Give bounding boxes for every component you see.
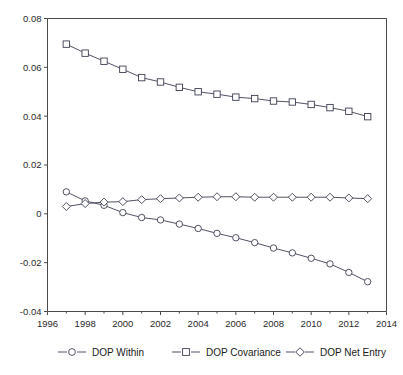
data-point-square: [308, 101, 314, 107]
data-point-square: [195, 89, 201, 95]
data-point-circle: [327, 261, 333, 267]
data-point-circle: [346, 269, 352, 275]
data-point-square: [82, 50, 88, 56]
data-point-circle: [233, 235, 239, 241]
data-point-circle: [138, 214, 144, 220]
chart-figure: 0.080.060.040.020-0.02-0.041996199820002…: [0, 0, 403, 375]
data-point-square: [214, 91, 220, 97]
series-line-dop-covariance: [66, 44, 367, 117]
data-point-diamond: [62, 203, 70, 211]
x-tick-label: 2008: [263, 318, 284, 329]
x-tick-label: 2002: [150, 318, 171, 329]
legend-marker-square: [183, 349, 190, 356]
data-point-square: [120, 66, 126, 72]
data-point-diamond: [307, 193, 315, 201]
legend-label-dop-net-entry: DOP Net Entry: [320, 347, 386, 358]
data-point-diamond: [119, 198, 127, 206]
data-point-square: [327, 104, 333, 110]
data-point-square: [364, 113, 370, 119]
data-point-circle: [176, 221, 182, 227]
legend-label-dop-within: DOP Within: [92, 347, 144, 358]
x-tick-label: 2014: [376, 318, 397, 329]
data-point-circle: [157, 217, 163, 223]
x-tick-label: 2006: [225, 318, 246, 329]
legend-marker-circle: [69, 349, 76, 356]
data-point-diamond: [213, 193, 221, 201]
y-tick-label: 0.08: [23, 13, 42, 24]
data-point-diamond: [288, 193, 296, 201]
data-point-square: [289, 99, 295, 105]
x-tick-label: 1996: [37, 318, 58, 329]
data-point-diamond: [251, 193, 259, 201]
data-point-circle: [195, 225, 201, 231]
data-point-square: [176, 84, 182, 90]
data-point-circle: [270, 245, 276, 251]
data-point-diamond: [270, 193, 278, 201]
data-point-square: [157, 79, 163, 85]
x-tick-label: 2000: [112, 318, 133, 329]
data-point-diamond: [175, 194, 183, 202]
data-point-diamond: [138, 196, 146, 204]
data-point-diamond: [232, 193, 240, 201]
data-point-circle: [63, 189, 69, 195]
y-tick-label: 0.02: [23, 159, 42, 170]
data-point-diamond: [326, 193, 334, 201]
y-tick-label: 0.06: [23, 62, 42, 73]
legend-label-dop-covariance: DOP Covariance: [206, 347, 281, 358]
x-tick-label: 2004: [188, 318, 209, 329]
x-tick-label: 1998: [75, 318, 96, 329]
y-tick-label: -0.04: [20, 306, 42, 317]
data-point-diamond: [157, 195, 165, 203]
data-point-square: [138, 74, 144, 80]
data-point-square: [101, 58, 107, 64]
data-point-circle: [364, 279, 370, 285]
legend-marker-diamond: [296, 348, 305, 357]
data-point-diamond: [345, 194, 353, 202]
data-point-square: [346, 108, 352, 114]
y-tick-label: 0: [36, 208, 41, 219]
data-point-square: [233, 94, 239, 100]
data-point-circle: [251, 239, 257, 245]
data-point-circle: [120, 209, 126, 215]
data-point-diamond: [364, 195, 372, 203]
data-point-square: [251, 95, 257, 101]
x-tick-label: 2010: [301, 318, 322, 329]
x-tick-label: 2012: [338, 318, 359, 329]
data-point-diamond: [194, 193, 202, 201]
plot-frame: [48, 19, 387, 312]
data-point-circle: [308, 255, 314, 261]
data-point-square: [63, 41, 69, 47]
y-tick-label: -0.02: [20, 257, 42, 268]
line-chart: 0.080.060.040.020-0.02-0.041996199820002…: [0, 0, 403, 375]
y-tick-label: 0.04: [23, 111, 42, 122]
data-point-circle: [289, 250, 295, 256]
data-point-square: [270, 98, 276, 104]
data-point-circle: [214, 230, 220, 236]
